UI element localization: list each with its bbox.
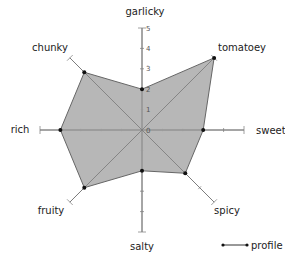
data-point-fruity bbox=[82, 186, 86, 190]
data-point-spicy bbox=[183, 171, 187, 175]
category-label-chunky: chunky bbox=[32, 42, 68, 53]
category-label-spicy: spicy bbox=[214, 205, 240, 216]
data-point-rich bbox=[58, 128, 62, 132]
category-label-tomatoey: tomatoey bbox=[218, 42, 266, 53]
data-point-garlicky bbox=[140, 87, 144, 91]
legend: profile bbox=[221, 240, 282, 251]
data-point-salty bbox=[140, 169, 144, 173]
legend-label: profile bbox=[251, 240, 283, 251]
category-label-salty: salty bbox=[130, 241, 154, 252]
r-tick-label: 4 bbox=[146, 45, 151, 53]
profile-area bbox=[60, 58, 214, 188]
category-label-sweet: sweet bbox=[256, 125, 285, 136]
legend-marker-right bbox=[245, 243, 248, 246]
category-label-rich: rich bbox=[11, 124, 30, 135]
radar-chart: 012345 garlickytomatoeysweetspicysaltyfr… bbox=[0, 0, 285, 259]
profile-series bbox=[40, 28, 244, 232]
legend-marker-left bbox=[221, 243, 224, 246]
category-label-fruity: fruity bbox=[38, 205, 65, 216]
r-tick-label: 2 bbox=[146, 86, 150, 94]
r-tick-label: 5 bbox=[146, 25, 150, 33]
data-point-sweet bbox=[201, 128, 205, 132]
category-label-garlicky: garlicky bbox=[126, 6, 165, 17]
r-tick-label: 3 bbox=[146, 65, 150, 73]
r-tick-label: 0 bbox=[146, 127, 150, 135]
data-point-tomatoey bbox=[212, 56, 216, 60]
r-tick-label: 1 bbox=[146, 106, 150, 114]
data-point-chunky bbox=[82, 70, 86, 74]
